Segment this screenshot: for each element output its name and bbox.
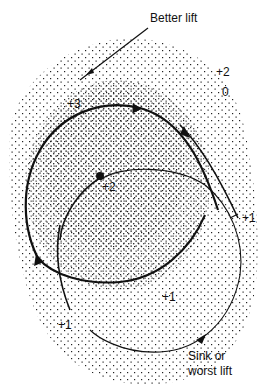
lift-value-right-plus1: +1	[242, 212, 256, 224]
lift-value-core-plus3: +3	[67, 98, 81, 110]
lift-value-top-right-zero: 0	[222, 86, 229, 98]
sink-label: Sink or worst lift	[188, 349, 232, 379]
lift-value-bottom-mid-plus1: +1	[162, 291, 176, 303]
thermal-diagram	[0, 0, 264, 384]
sink-label-line1: Sink or	[188, 349, 232, 364]
thermal-area-core	[26, 80, 210, 290]
better-lift-label: Better lift	[150, 11, 197, 26]
lift-value-bottom-left-plus1: +1	[58, 319, 72, 331]
lift-value-top-right-plus2: +2	[216, 66, 230, 78]
sink-label-line2: worst lift	[188, 364, 232, 379]
lift-value-inner-plus2: +2	[102, 181, 116, 193]
